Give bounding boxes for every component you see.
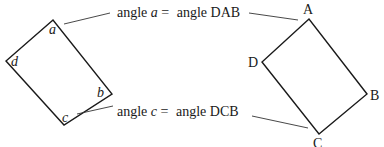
annotation-angle-a: angle a = angle DAB	[117, 5, 240, 20]
leader-line-a-right	[249, 13, 298, 20]
right-rectangle	[262, 19, 367, 134]
corner-label-d: d	[11, 54, 19, 69]
leader-line-a-left	[64, 13, 110, 24]
vertex-label-D: D	[248, 55, 258, 70]
corner-label-a: a	[49, 22, 56, 37]
vertex-label-A: A	[303, 2, 314, 17]
annotation-angle-c: angle c = angle DCB	[117, 104, 239, 119]
vertex-label-B: B	[370, 88, 379, 103]
angle-diagram: a d b c A D B C angle a = angle DAB angl…	[0, 0, 384, 147]
vertex-label-C: C	[313, 136, 322, 147]
corner-label-b: b	[97, 85, 104, 100]
leader-line-c-right	[252, 116, 308, 128]
leader-line-c-left	[77, 106, 113, 114]
left-rectangle	[6, 20, 112, 125]
corner-label-c: c	[62, 110, 69, 125]
